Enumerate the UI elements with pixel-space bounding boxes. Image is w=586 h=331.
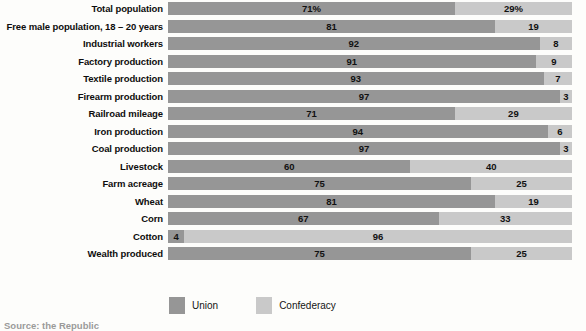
bar-segment-union: 93: [168, 72, 544, 85]
bar-segment-confederacy: 40: [410, 160, 572, 173]
segment-value: 3: [563, 142, 568, 155]
bar-segment-confederacy: 29: [455, 107, 572, 120]
bar-segment-union: 81: [168, 195, 495, 208]
row-bar: 937: [168, 72, 572, 85]
row-bar: 7525: [168, 247, 572, 260]
chart-row: Iron production946: [0, 125, 586, 138]
legend-label: Union: [192, 300, 218, 311]
chart-row: Free male population, 18 – 20 years8119: [0, 20, 586, 33]
row-bar: 973: [168, 142, 572, 155]
bar-segment-union: 97: [168, 90, 560, 103]
chart-rows: Total population71%29%Free male populati…: [0, 2, 586, 265]
row-bar: 946: [168, 125, 572, 138]
bar-segment-union: 75: [168, 247, 471, 260]
bar-segment-union: 75: [168, 177, 471, 190]
segment-value: 9: [551, 55, 556, 68]
row-bar: 6040: [168, 160, 572, 173]
row-bar: 919: [168, 55, 572, 68]
chart-row: Farm acreage7525: [0, 177, 586, 190]
row-label: Iron production: [0, 125, 168, 138]
legend-label: Confederacy: [279, 300, 336, 311]
row-label: Firearm production: [0, 90, 168, 103]
row-label: Corn: [0, 212, 168, 225]
chart-row: Railroad mileage7129: [0, 107, 586, 120]
bar-segment-confederacy: 6: [548, 125, 572, 138]
row-bar: 973: [168, 90, 572, 103]
row-bar: 7129: [168, 107, 572, 120]
chart-row: Wealth produced7525: [0, 247, 586, 260]
segment-value: 3: [563, 90, 568, 103]
bar-segment-confederacy: 33: [439, 212, 572, 225]
bar-segment-confederacy: 19: [495, 20, 572, 33]
bar-segment-union: 97: [168, 142, 560, 155]
row-label: Railroad mileage: [0, 107, 168, 120]
row-label: Industrial workers: [0, 37, 168, 50]
chart-row: Wheat8119: [0, 195, 586, 208]
row-label: Farm acreage: [0, 177, 168, 190]
chart-row: Livestock6040: [0, 160, 586, 173]
row-label: Factory production: [0, 55, 168, 68]
bar-segment-union: 94: [168, 125, 548, 138]
chart-legend: UnionConfederacy: [169, 297, 336, 314]
bar-segment-union: 60: [168, 160, 410, 173]
row-label: Livestock: [0, 160, 168, 173]
row-label: Free male population, 18 – 20 years: [0, 20, 168, 33]
bar-segment-confederacy: 19: [495, 195, 572, 208]
bar-segment-confederacy: 3: [560, 90, 572, 103]
segment-value: 8: [553, 37, 558, 50]
legend-item: Confederacy: [256, 297, 336, 314]
bar-segment-union: 92: [168, 37, 540, 50]
chart-row: Cotton496: [0, 230, 586, 243]
row-bar: 8119: [168, 20, 572, 33]
row-bar: 6733: [168, 212, 572, 225]
bar-segment-confederacy: 25: [471, 177, 572, 190]
row-label: Wheat: [0, 195, 168, 208]
row-label: Total population: [0, 2, 168, 15]
bar-segment-union: 81: [168, 20, 495, 33]
chart-row: Total population71%29%: [0, 2, 586, 15]
row-bar: 7525: [168, 177, 572, 190]
legend-item: Union: [169, 297, 218, 314]
source-note: Source: the Republic: [4, 320, 99, 331]
bar-segment-confederacy: 25: [471, 247, 572, 260]
row-label: Wealth produced: [0, 247, 168, 260]
bar-segment-confederacy: 7: [544, 72, 572, 85]
legend-swatch-confederacy: [256, 297, 272, 314]
chart-row: Factory production919: [0, 55, 586, 68]
bar-segment-confederacy: 9: [536, 55, 572, 68]
bar-segment-union: 71%: [168, 2, 455, 15]
bar-segment-union: 91: [168, 55, 536, 68]
row-bar: 8119: [168, 195, 572, 208]
chart-row: Industrial workers928: [0, 37, 586, 50]
bar-segment-union: 4: [168, 230, 184, 243]
bar-segment-confederacy: 29%: [455, 2, 572, 15]
segment-value: 6: [557, 125, 562, 138]
segment-value: 7: [555, 72, 560, 85]
row-bar: 496: [168, 230, 572, 243]
row-bar: 71%29%: [168, 2, 572, 15]
chart-row: Coal production973: [0, 142, 586, 155]
legend-swatch-union: [169, 297, 185, 314]
bar-segment-union: 71: [168, 107, 455, 120]
bar-segment-confederacy: 8: [540, 37, 572, 50]
row-label: Cotton: [0, 230, 168, 243]
chart-row: Corn6733: [0, 212, 586, 225]
segment-value: 4: [173, 230, 178, 243]
bar-segment-confederacy: 96: [184, 230, 572, 243]
row-label: Coal production: [0, 142, 168, 155]
row-label: Textile production: [0, 72, 168, 85]
chart-row: Firearm production973: [0, 90, 586, 103]
row-bar: 928: [168, 37, 572, 50]
chart-row: Textile production937: [0, 72, 586, 85]
bar-segment-confederacy: 3: [560, 142, 572, 155]
bar-segment-union: 67: [168, 212, 439, 225]
